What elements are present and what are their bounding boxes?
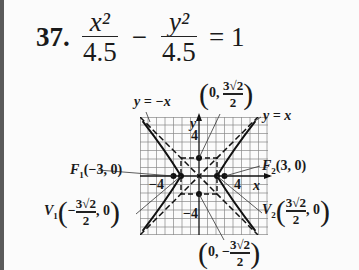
focus2-label: F2(3, 0) bbox=[262, 158, 306, 176]
tick-neg-y: −4 bbox=[183, 206, 198, 222]
tick-pos-x: 4 bbox=[234, 177, 241, 193]
vertex2-label: V2(3√22, 0) bbox=[262, 194, 330, 228]
asymptote-neg-label: y = −x bbox=[134, 94, 171, 110]
covertex-top-label: (0, 3√22) bbox=[199, 77, 253, 111]
hyperbola-graph bbox=[0, 0, 359, 270]
tick-neg-x: −4 bbox=[149, 177, 164, 193]
focus1-label: F1(−3, 0) bbox=[70, 162, 122, 180]
asymptote-pos-label: y = x bbox=[263, 108, 291, 124]
vertex1-label: V1(−3√22, 0) bbox=[44, 195, 120, 229]
axes bbox=[140, 113, 272, 235]
tick-pos-y: 4 bbox=[191, 128, 198, 144]
x-axis-label: x bbox=[253, 178, 260, 194]
covertex-bottom-label: (0, −3√22) bbox=[198, 236, 260, 270]
